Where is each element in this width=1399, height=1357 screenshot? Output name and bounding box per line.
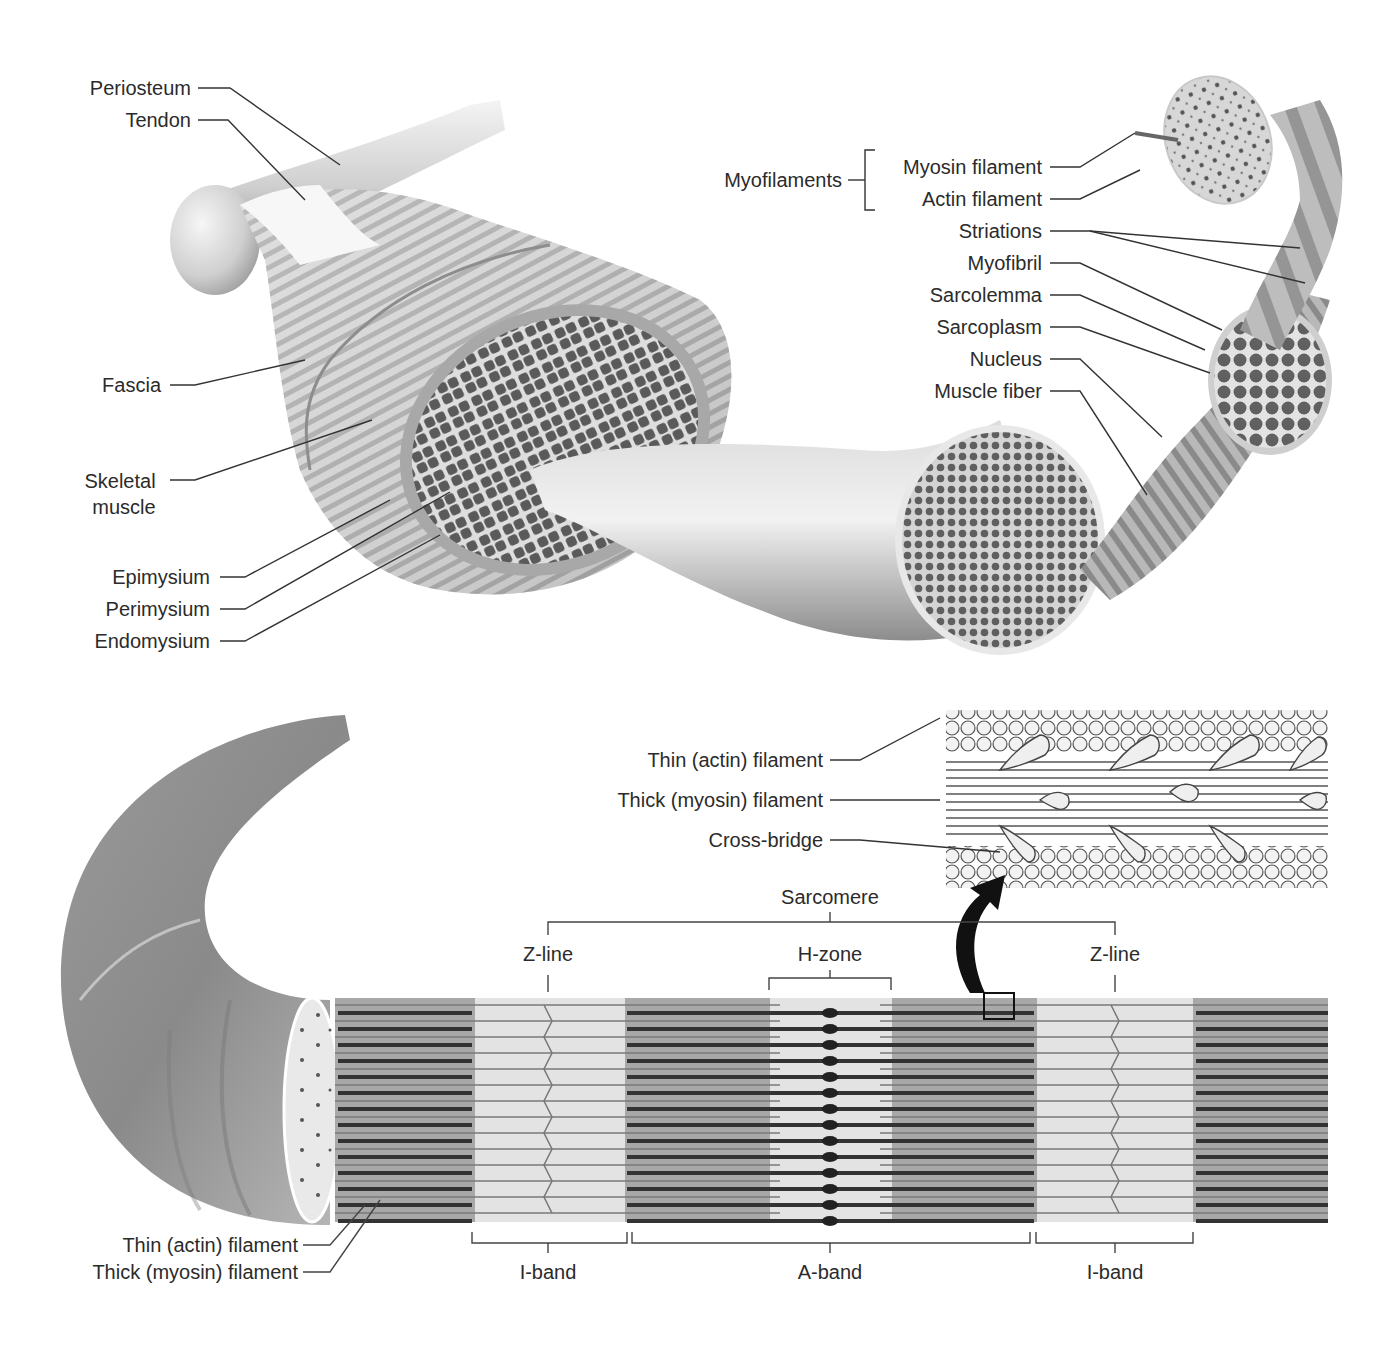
diagram-artwork (0, 0, 1399, 1357)
sarcomere-strip (335, 993, 1328, 1226)
label-epimysium: Epimysium (112, 566, 210, 588)
label-z-line-left: Z-line (523, 943, 573, 965)
zoom-arrow-icon (956, 875, 1005, 993)
label-myosin-filament: Myosin filament (903, 156, 1042, 178)
muscle-anatomy-diagram: Periosteum Tendon Fascia Skeletal muscle… (0, 0, 1399, 1357)
label-actin-filament: Actin filament (922, 188, 1042, 210)
label-z-line-right: Z-line (1090, 943, 1140, 965)
label-muscle: muscle (92, 496, 155, 518)
label-skeletal: Skeletal (84, 470, 155, 492)
label-thick-myosin-inset: Thick (myosin) filament (617, 789, 823, 811)
label-a-band: A-band (798, 1261, 863, 1283)
label-cross-bridge: Cross-bridge (709, 829, 823, 851)
label-thick-myosin-bottom: Thick (myosin) filament (92, 1261, 298, 1283)
label-thin-actin-inset: Thin (actin) filament (647, 749, 823, 771)
crossbridge-inset (946, 708, 1328, 890)
label-perimysium: Perimysium (106, 598, 210, 620)
label-endomysium: Endomysium (94, 630, 210, 652)
label-h-zone: H-zone (798, 943, 862, 965)
myofibril-horn (61, 715, 350, 1225)
label-striations: Striations (959, 220, 1042, 242)
label-sarcolemma: Sarcolemma (930, 284, 1042, 306)
label-sarcoplasm: Sarcoplasm (936, 316, 1042, 338)
label-nucleus: Nucleus (970, 348, 1042, 370)
label-sarcomere: Sarcomere (781, 886, 879, 908)
label-fascia: Fascia (102, 374, 161, 396)
label-muscle-fiber: Muscle fiber (934, 380, 1042, 402)
label-thin-actin-bottom: Thin (actin) filament (122, 1234, 298, 1256)
label-i-band-left: I-band (520, 1261, 577, 1283)
label-myofilaments: Myofilaments (724, 169, 842, 191)
label-periosteum: Periosteum (90, 77, 191, 99)
label-i-band-right: I-band (1087, 1261, 1144, 1283)
label-myofibril: Myofibril (968, 252, 1042, 274)
label-tendon: Tendon (125, 109, 191, 131)
